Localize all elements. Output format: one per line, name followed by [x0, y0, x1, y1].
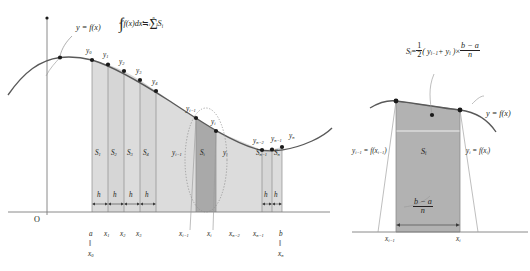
width-label-h-6: h	[274, 192, 278, 199]
point-label-yi-1: yi−1	[186, 106, 196, 113]
area-label-S4: S4	[143, 150, 149, 157]
right-base-fraction: b − an	[413, 198, 433, 216]
area-label-S2: S2	[111, 150, 117, 157]
axis-label-a: a	[89, 231, 93, 238]
figure-geometry	[0, 0, 530, 271]
right-curve-label: y = f(x)	[486, 110, 511, 118]
left-main-formula: ∫baf(x)dx≒Σni = 1Si	[119, 20, 163, 29]
width-label-h-3: h	[129, 192, 133, 199]
left-strip-fills	[92, 60, 282, 212]
right-axis-label-xi-1: xi−1	[385, 236, 395, 243]
right-trapezoid-area-formula: Si=12( yi−1+ yi )×b − an	[406, 42, 480, 60]
sigma-upper-limit: n	[152, 17, 154, 20]
point-label-y3: y3	[136, 68, 141, 75]
sigma-lower-limit: i = 1	[149, 24, 158, 27]
right-left-height-label: yi−1 = f(xi−1)	[352, 148, 387, 155]
equiv-bar-left: ‖	[89, 241, 91, 248]
width-label-h-1: h	[97, 192, 101, 199]
base-width-fraction: b − an	[413, 198, 433, 216]
axis-label-xn-1: xn−1	[253, 231, 264, 238]
right-right-height-label: yi = f(xi)	[466, 148, 490, 155]
width-label-h-4: h	[145, 192, 149, 199]
right-area-label: Si	[421, 148, 427, 156]
origin-label: O	[34, 216, 40, 224]
width-label-h-5: h	[264, 192, 268, 199]
point-label-y0: y0	[86, 48, 91, 55]
axis-label-b: b	[279, 231, 283, 238]
axis-label-xn-2: xn−2	[229, 231, 240, 238]
figure-canvas: y = f(x) ∫baf(x)dx≒Σni = 1Si y0 y1 y2 y3…	[0, 0, 530, 271]
equiv-left-x0: x0	[88, 251, 93, 258]
point-label-yn: yn	[289, 133, 294, 140]
right-axis-label-xi: xi	[456, 236, 460, 243]
strip-left-height-label: yi−1	[172, 150, 182, 157]
width-label-h-2: h	[113, 192, 117, 199]
axis-label-x3: x3	[136, 231, 141, 238]
point-label-yn-2: yn−2	[253, 138, 264, 145]
integral-sign: ∫ba	[119, 20, 123, 28]
equiv-right-xn: xn	[278, 251, 283, 258]
area-label-Si: Si	[200, 150, 205, 157]
curve-label-leader	[60, 36, 72, 56]
sigma-sign: Σni = 1	[149, 21, 157, 29]
area-label-Sn: Sn	[274, 150, 280, 157]
left-curve-label: y = f(x)	[76, 24, 101, 32]
strip-right-height-label: yi	[223, 150, 227, 157]
width-fraction: b − an	[460, 42, 480, 60]
point-label-y4: y4	[152, 79, 157, 86]
equiv-bar-right: ‖	[279, 241, 281, 248]
integrand: f(x)dx	[123, 19, 142, 28]
point-label-yi: yi	[211, 119, 215, 126]
axis-label-x2: x2	[120, 231, 125, 238]
point-label-y2: y2	[119, 59, 124, 66]
integral-lower-limit: a	[119, 22, 121, 24]
sigma-term-subscript: i	[162, 23, 163, 29]
area-label-S3: S3	[127, 150, 133, 157]
point-label-y1: y1	[103, 52, 108, 59]
y-axis-cap	[45, 16, 48, 19]
axis-label-x1: x1	[104, 231, 109, 238]
area-label-S1: S1	[95, 150, 101, 157]
axis-label-xi-1: xi−1	[179, 231, 189, 238]
axis-label-xi: xi	[207, 231, 211, 238]
point-label-yn-1: yn−1	[271, 136, 282, 143]
area-label-Sn-1: Sn−1	[256, 150, 267, 157]
